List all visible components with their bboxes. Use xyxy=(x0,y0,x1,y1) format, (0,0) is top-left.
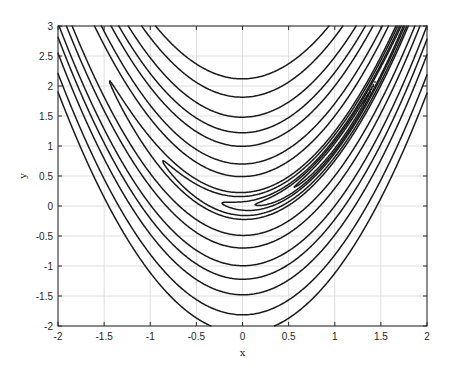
y-tick-label: 1.5 xyxy=(39,111,53,122)
x-tick-label: -1 xyxy=(146,331,155,342)
contour-level-50 xyxy=(66,26,420,248)
x-tick-label: 1.5 xyxy=(374,331,388,342)
y-tick-label: 0.5 xyxy=(39,171,53,182)
y-tick-label: 0 xyxy=(47,201,53,212)
x-tick-label: -1.5 xyxy=(96,331,114,342)
x-tick-label: -0.5 xyxy=(188,331,206,342)
y-tick-label: 3 xyxy=(47,21,53,32)
x-tick-label: 0.5 xyxy=(282,331,296,342)
x-tick-label: 2 xyxy=(424,331,430,342)
x-tick-label: -2 xyxy=(54,331,63,342)
y-tick-label: -0.5 xyxy=(36,231,54,242)
contour-level-25 xyxy=(72,26,415,235)
x-axis-label: x xyxy=(240,347,246,358)
x-tick-labels: -2-1.5-1-0.500.511.52 xyxy=(54,331,431,342)
y-tick-label: 2 xyxy=(47,81,53,92)
y-tick-label: 2.5 xyxy=(39,51,53,62)
y-tick-label: -1.5 xyxy=(36,291,54,302)
y-tick-labels: -2-1.5-1-0.500.511.522.53 xyxy=(36,21,54,332)
x-tick-label: 0 xyxy=(240,331,246,342)
y-tick-label: -1 xyxy=(44,261,53,272)
y-axis-label: y xyxy=(17,173,28,180)
y-tick-label: 1 xyxy=(47,141,53,152)
y-tick-label: -2 xyxy=(44,321,53,332)
contour-chart: -2-1.5-1-0.500.511.52 -2-1.5-1-0.500.511… xyxy=(0,0,451,382)
x-tick-label: 1 xyxy=(332,331,338,342)
